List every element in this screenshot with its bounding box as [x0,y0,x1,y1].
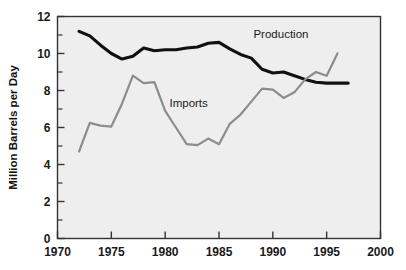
y-tick-label: 12 [37,10,51,24]
y-tick-label: 2 [44,195,51,209]
chart-canvas: 024681012 1970197519801985199019952000 P… [0,0,406,270]
y-tick-label: 10 [37,47,51,61]
y-tick-label: 4 [44,158,51,172]
y-tick-label: 8 [44,84,51,98]
y-tick-label: 6 [44,121,51,135]
x-tick-label: 1980 [152,245,179,259]
series-label-imports: Imports [169,97,208,109]
oil-production-imports-chart: 024681012 1970197519801985199019952000 P… [0,0,406,270]
y-axis-title: Million Barrels per Day [7,65,19,190]
x-tick-label: 1990 [259,245,286,259]
x-tick-label: 1995 [313,245,340,259]
x-tick-label: 1985 [206,245,233,259]
x-tick-label: 1975 [98,245,125,259]
series-label-production: Production [253,28,308,40]
x-tick-label: 1970 [44,245,71,259]
x-tick-label: 2000 [367,245,394,259]
